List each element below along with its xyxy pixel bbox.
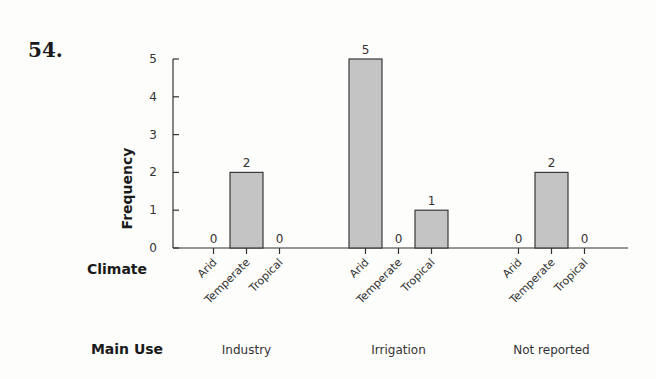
- bar-value-label: 0: [515, 232, 523, 246]
- climate-category-label: Tropical: [551, 256, 591, 296]
- bar-industry-temperate: [230, 172, 263, 248]
- bar-irrigation-arid: [349, 59, 382, 248]
- climate-category-label: Tropical: [246, 256, 286, 296]
- climate-category-label: Arid: [195, 256, 220, 281]
- y-tick-label: 4: [149, 90, 157, 104]
- bar-not-reported-temperate: [535, 172, 568, 248]
- main-use-group-label: Irrigation: [371, 343, 426, 357]
- y-tick-label: 0: [149, 241, 157, 255]
- bar-irrigation-tropical: [415, 210, 448, 248]
- y-tick-label: 3: [149, 128, 157, 142]
- bar-value-label: 0: [581, 232, 589, 246]
- bar-value-label: 1: [428, 194, 436, 208]
- climate-category-label: Arid: [500, 256, 525, 281]
- bar-value-label: 0: [276, 232, 284, 246]
- bar-chart: 012345FrequencyClimateMain Use0Arid2Temp…: [0, 0, 656, 379]
- y-tick-label: 2: [149, 165, 157, 179]
- bar-value-label: 5: [362, 43, 370, 57]
- climate-category-label: Arid: [347, 256, 372, 281]
- climate-row-label: Climate: [87, 261, 147, 277]
- bar-value-label: 0: [210, 232, 218, 246]
- y-tick-label: 1: [149, 203, 157, 217]
- y-axis-label: Frequency: [119, 148, 135, 230]
- y-tick-label: 5: [149, 52, 157, 66]
- bar-value-label: 0: [395, 232, 403, 246]
- bar-value-label: 2: [243, 156, 251, 170]
- climate-category-label: Tropical: [398, 256, 438, 296]
- main-use-row-label: Main Use: [91, 341, 163, 357]
- bar-value-label: 2: [548, 156, 556, 170]
- main-use-group-label: Industry: [222, 343, 271, 357]
- main-use-group-label: Not reported: [513, 343, 590, 357]
